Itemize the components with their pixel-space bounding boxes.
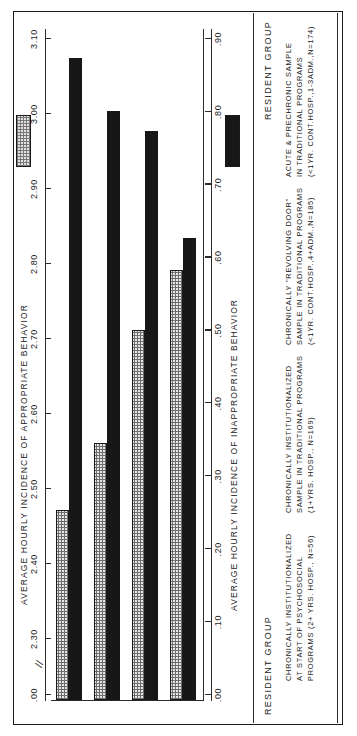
bottom-axis-tick-label: .50 [213, 323, 223, 337]
bottom-axis-tick [205, 475, 211, 476]
bottom-axis-tick-label: .90 [213, 32, 223, 46]
row-label-line: ACUTE & PRECHRONIC SAMPLE [283, 26, 294, 177]
top-axis-tick-label: 2.90 [29, 179, 39, 199]
bar-inappropriate [183, 238, 196, 700]
bottom-axis-tick [205, 256, 211, 257]
top-axis-tick-label: 2.60 [29, 404, 39, 424]
bottom-axis-tick [205, 329, 211, 330]
row-label-line: SAMPLE IN TRADITIONAL PROGRAMS [294, 355, 305, 513]
bottom-axis-title: AVERAGE HOURLY INCIDENCE OF INAPPROPRIAT… [229, 299, 239, 611]
row-label-line: (<1YR. CONT.HOSP.,4+ADM.,N=185) [305, 187, 316, 345]
bottom-axis-tick [205, 621, 211, 622]
table-rule-bottom [337, 13, 338, 723]
top-axis-tick-label: 2.50 [29, 479, 39, 499]
row-label-line: SAMPLE IN TRADITIONAL PROGRAMS [294, 187, 305, 345]
bottom-axis-tick-label: .80 [213, 105, 223, 119]
bottom-axis-tick-label: .60 [213, 251, 223, 265]
bar-group [51, 28, 89, 700]
row-label: CHRONICALLY "REVOLVING DOOR"SAMPLE IN TR… [283, 187, 316, 345]
bar-appropriate [170, 271, 183, 701]
top-axis-tick-label: 2.80 [29, 254, 39, 274]
legend-swatch-inappropriate [225, 115, 240, 167]
bottom-axis-tick-label: .20 [213, 542, 223, 556]
bar-appropriate [132, 331, 145, 701]
top-axis-tick-label: 3.10 [29, 29, 39, 49]
bottom-axis-tick-label: .40 [213, 396, 223, 410]
bottom-axis-line [211, 29, 212, 701]
bottom-axis-tick-label: .70 [213, 178, 223, 192]
rotated-plot-container: AVERAGE HOURLY INCIDENCE OF APPROPRIATE … [15, 13, 341, 723]
resident-group-header-right: RESIDENT GROUP [263, 21, 273, 120]
row-label: CHRONICALLY INSTITUTIONALIZEDSAMPLE IN T… [283, 355, 316, 513]
top-axis-break-icon: // [32, 659, 45, 669]
figure-border: AVERAGE HOURLY INCIDENCE OF APPROPRIATE … [13, 11, 343, 725]
plot-area [51, 29, 203, 701]
bar-group [165, 28, 203, 700]
bottom-axis-tick [205, 548, 211, 549]
row-label-line: IN TRADITIONAL PROGRAMS [294, 26, 305, 177]
bottom-axis-tick [205, 402, 211, 403]
bar-inappropriate [107, 111, 120, 700]
top-axis-line [45, 29, 46, 701]
row-label-line: PROGRAMS (2+ YRS. HOSP., N=56) [305, 533, 316, 681]
top-axis-tick-label: .00 [29, 688, 39, 702]
top-axis-tick-label: 3.00 [29, 104, 39, 124]
row-label-line: (<1YR. CONT.HOSP.,1-3ADM.,N=174) [305, 26, 316, 177]
bar-appropriate [56, 511, 69, 701]
bottom-axis-tick-label: .10 [213, 615, 223, 629]
row-label-line: (1+YRS. HOSP., N=169) [305, 355, 316, 513]
bottom-axis-tick-label: .00 [213, 688, 223, 702]
bottom-axis-tick [205, 38, 211, 39]
bar-group [127, 28, 165, 700]
figure-canvas: AVERAGE HOURLY INCIDENCE OF APPROPRIATE … [0, 0, 357, 736]
row-label: CHRONICALLY INSTITUTIONALIZEDAT START OF… [283, 533, 316, 681]
table-rule-top [253, 13, 254, 723]
bar-appropriate [94, 443, 107, 700]
row-label-line: CHRONICALLY INSTITUTIONALIZED [283, 533, 294, 681]
bottom-axis-tick [205, 111, 211, 112]
bar-group [89, 28, 127, 700]
bottom-axis-tick-label: .30 [213, 469, 223, 483]
bottom-axis-tick [205, 694, 211, 695]
resident-group-table: RESIDENT GROUP RESIDENT GROUP CHRONICALL… [253, 13, 339, 723]
row-label: ACUTE & PRECHRONIC SAMPLEIN TRADITIONAL … [283, 26, 316, 177]
top-axis-title: AVERAGE HOURLY INCIDENCE OF APPROPRIATE … [19, 304, 29, 605]
bottom-axis-tick [205, 183, 211, 184]
resident-group-header-left: RESIDENT GROUP [263, 616, 273, 715]
row-label-line: CHRONICALLY "REVOLVING DOOR" [283, 187, 294, 345]
row-label-line: AT START OF PSYCHOSOCIAL [294, 533, 305, 681]
top-axis-tick-label: 2.70 [29, 329, 39, 349]
plot-baseline [203, 29, 204, 701]
bar-inappropriate [69, 58, 82, 700]
top-axis-tick-label: 2.40 [29, 554, 39, 574]
top-axis-tick-label: 2.30 [29, 629, 39, 649]
bar-inappropriate [145, 131, 158, 700]
row-label-line: CHRONICALLY INSTITUTIONALIZED [283, 355, 294, 513]
